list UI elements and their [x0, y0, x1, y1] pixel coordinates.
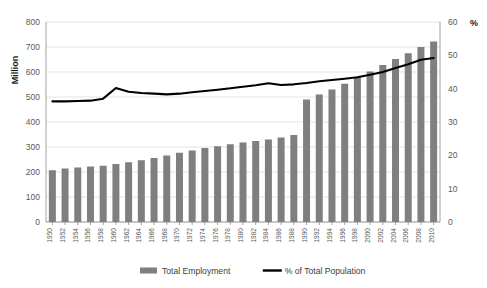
x-axis-label-1962: 1962 — [123, 228, 130, 243]
x-axis-label-1998: 1998 — [351, 228, 358, 243]
x-axis-label-1984: 1984 — [262, 228, 269, 243]
bar-1960 — [112, 164, 119, 222]
x-axis-label-1986: 1986 — [275, 228, 282, 243]
employment-chart: 01002003004005006007008000102030405060Mi… — [0, 0, 487, 288]
y-axis-tick-200: 200 — [26, 167, 40, 177]
y2-axis-tick-0: 0 — [448, 217, 453, 227]
x-axis-label-2002: 2002 — [377, 228, 384, 243]
x-axis-label-1980: 1980 — [237, 228, 244, 243]
x-axis-label-1970: 1970 — [173, 228, 180, 243]
bar-1986 — [278, 138, 285, 223]
bar-1962 — [125, 162, 132, 222]
x-axis-label-1988: 1988 — [288, 228, 295, 243]
bar-1980 — [240, 143, 247, 223]
x-axis-label-1960: 1960 — [110, 228, 117, 243]
y2-axis-tick-20: 20 — [448, 150, 458, 160]
bar-1976 — [214, 146, 221, 222]
bar-1972 — [189, 151, 196, 223]
x-axis-label-1966: 1966 — [148, 228, 155, 243]
bar-1950 — [49, 170, 56, 222]
y2-axis-title: % — [470, 18, 478, 28]
x-axis-label-2006: 2006 — [402, 228, 409, 243]
x-axis-label-1952: 1952 — [59, 228, 66, 243]
y-axis-tick-100: 100 — [26, 192, 40, 202]
bar-1994 — [328, 90, 335, 223]
y-axis-tick-600: 600 — [26, 67, 40, 77]
bar-1956 — [87, 167, 94, 223]
x-axis-label-1994: 1994 — [326, 228, 333, 243]
x-axis-label-2004: 2004 — [390, 228, 397, 243]
x-axis-label-1992: 1992 — [313, 228, 320, 243]
bar-1998 — [354, 78, 361, 223]
bar-1978 — [227, 144, 234, 222]
bar-1996 — [341, 84, 348, 222]
bar-1970 — [176, 153, 183, 222]
bar-1984 — [265, 140, 272, 223]
bar-2008 — [417, 47, 424, 222]
chart-container: 01002003004005006007008000102030405060Mi… — [0, 0, 487, 288]
bar-1964 — [138, 160, 145, 222]
y-axis-tick-800: 800 — [26, 17, 40, 27]
x-axis-label-2000: 2000 — [364, 228, 371, 243]
bar-1990 — [303, 100, 310, 223]
bar-1952 — [62, 169, 69, 223]
bar-2000 — [367, 72, 374, 223]
bar-2006 — [405, 53, 412, 222]
legend-label-0: Total Employment — [162, 266, 231, 276]
x-axis-label-1972: 1972 — [186, 228, 193, 243]
x-axis-label-1978: 1978 — [224, 228, 231, 243]
y2-axis-tick-40: 40 — [448, 84, 458, 94]
bar-1992 — [316, 95, 323, 223]
x-axis-label-2008: 2008 — [415, 228, 422, 243]
y2-axis-tick-10: 10 — [448, 184, 458, 194]
x-axis-label-1954: 1954 — [72, 228, 79, 243]
bar-2004 — [392, 59, 399, 222]
x-axis-label-1950: 1950 — [46, 228, 53, 243]
bar-1988 — [290, 135, 297, 222]
legend-label-1: % of Total Population — [285, 266, 366, 276]
bar-2002 — [379, 65, 386, 222]
y2-axis-tick-30: 30 — [448, 117, 458, 127]
bar-1966 — [151, 158, 158, 222]
bar-1974 — [201, 148, 208, 222]
y-axis-tick-300: 300 — [26, 142, 40, 152]
y-axis-tick-400: 400 — [26, 117, 40, 127]
y2-axis-tick-50: 50 — [448, 50, 458, 60]
bar-1982 — [252, 141, 259, 222]
y2-axis-tick-60: 60 — [448, 17, 458, 27]
x-axis-label-1982: 1982 — [250, 228, 257, 243]
bar-1958 — [100, 166, 107, 222]
y-axis-title: Million — [10, 56, 20, 85]
x-axis-label-1976: 1976 — [212, 228, 219, 243]
y-axis-tick-700: 700 — [26, 42, 40, 52]
x-axis-label-1968: 1968 — [161, 228, 168, 243]
y-axis-tick-0: 0 — [35, 217, 40, 227]
x-axis-label-1956: 1956 — [84, 228, 91, 243]
x-axis-label-1964: 1964 — [135, 228, 142, 243]
legend-swatch-0 — [140, 268, 157, 274]
x-axis-label-2010: 2010 — [428, 228, 435, 243]
bar-1968 — [163, 156, 170, 223]
y-axis-tick-500: 500 — [26, 92, 40, 102]
x-axis-label-1996: 1996 — [339, 228, 346, 243]
line-pct-total-population — [52, 58, 433, 101]
x-axis-label-1958: 1958 — [97, 228, 104, 243]
x-axis-label-1990: 1990 — [301, 228, 308, 243]
bar-2010 — [430, 42, 437, 223]
bar-1954 — [74, 168, 81, 223]
x-axis-label-1974: 1974 — [199, 228, 206, 243]
